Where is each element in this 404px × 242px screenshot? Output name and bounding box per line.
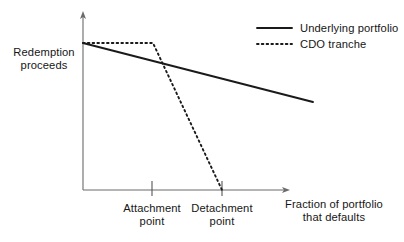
series-cdo-tranche xyxy=(83,43,222,190)
x-axis-label: Fraction of portfoliothat defaults xyxy=(270,198,398,223)
chart-figure: Redemptionproceeds Fraction of portfolio… xyxy=(0,0,404,242)
y-axis-label-line1: Redemption xyxy=(13,46,74,58)
y-axis xyxy=(80,11,86,190)
x-axis-label-line2: that defaults xyxy=(303,211,365,223)
y-axis-label-line2: proceeds xyxy=(21,59,68,71)
x-tick-label-attachment: Attachmentpoint xyxy=(112,202,192,227)
x-tick-label-detachment-line1: Detachment xyxy=(191,202,252,214)
x-tick-label-detachment: Detachmentpoint xyxy=(182,202,262,227)
y-axis-label: Redemptionproceeds xyxy=(8,46,80,71)
series-underlying-portfolio xyxy=(83,43,313,102)
x-tick-label-attachment-line2: point xyxy=(140,215,165,227)
x-axis xyxy=(83,187,290,193)
x-tick-label-detachment-line2: point xyxy=(210,215,235,227)
x-axis-label-line1: Fraction of portfolio xyxy=(285,198,383,210)
legend-label-underlying-portfolio: Underlying portfolio xyxy=(300,22,398,35)
x-tick-label-attachment-line1: Attachment xyxy=(123,202,181,214)
legend-label-cdo-tranche: CDO tranche xyxy=(300,38,366,51)
